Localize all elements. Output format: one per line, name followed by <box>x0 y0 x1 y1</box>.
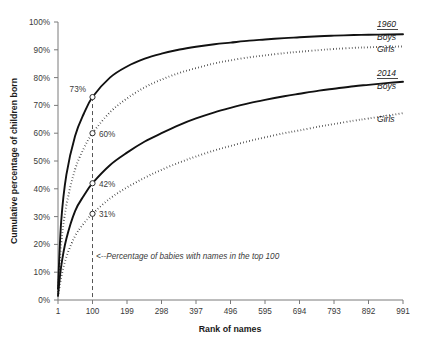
y-axis-title: Cumulative percentage of children born <box>9 78 19 244</box>
chart-figure: 100% 90% 80% 70% 60% 50% 40% 30% 20% 10%… <box>0 0 441 348</box>
legend-item-1960-boys: Boys <box>377 32 397 42</box>
legend-item-1960-girls: Girls <box>377 44 395 54</box>
y-tick-80: 80% <box>34 74 50 83</box>
y-tick-100: 100% <box>29 18 50 27</box>
y-tick-90: 90% <box>34 46 50 55</box>
x-tick-892: 892 <box>362 307 376 316</box>
legend-header-1960: 1960 <box>377 19 396 29</box>
y-tick-50: 50% <box>34 157 50 166</box>
x-tick-595: 595 <box>258 307 272 316</box>
label-2014-girls-31: 31% <box>99 210 115 219</box>
y-tick-70: 70% <box>34 101 50 110</box>
x-tick-298: 298 <box>155 307 169 316</box>
legend-item-2014-girls: Girls <box>377 114 395 124</box>
y-tick-30: 30% <box>34 213 50 222</box>
cumulative-name-share-chart: 100% 90% 80% 70% 60% 50% 40% 30% 20% 10%… <box>0 0 441 348</box>
marker-1960-girls <box>90 131 95 136</box>
y-tick-10: 10% <box>34 268 50 277</box>
x-tick-199: 199 <box>120 307 134 316</box>
label-1960-boys-73: 73% <box>70 85 86 94</box>
legend-item-2014-boys: Boys <box>377 81 397 91</box>
y-tick-0: 0% <box>38 296 50 305</box>
y-tick-60: 60% <box>34 129 50 138</box>
x-tick-1: 1 <box>56 307 61 316</box>
x-tick-694: 694 <box>293 307 307 316</box>
x-axis-title: Rank of names <box>199 324 262 334</box>
y-tick-40: 40% <box>34 185 50 194</box>
x-tick-100: 100 <box>86 307 100 316</box>
x-tick-793: 793 <box>327 307 341 316</box>
marker-1960-boys <box>90 94 95 99</box>
y-tick-20: 20% <box>34 240 50 249</box>
label-2014-boys-42: 42% <box>99 180 115 189</box>
x-tick-991: 991 <box>396 307 410 316</box>
legend-header-2014: 2014 <box>376 68 396 78</box>
label-1960-girls-60: 60% <box>99 130 115 139</box>
top-100-annotation: <--Percentage of babies with names in th… <box>96 252 280 261</box>
x-tick-397: 397 <box>189 307 203 316</box>
marker-2014-boys <box>90 181 95 186</box>
marker-2014-girls <box>90 211 95 216</box>
x-tick-496: 496 <box>224 307 238 316</box>
